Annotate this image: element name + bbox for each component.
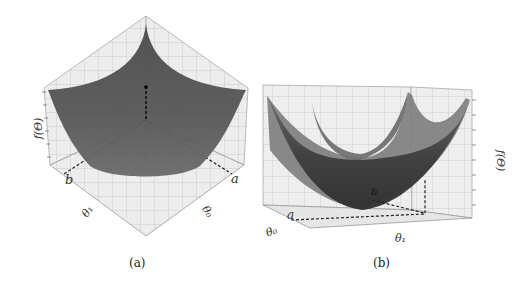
panel-b-plot: [263, 85, 476, 228]
panel-b-marker-b: b: [371, 187, 377, 197]
panel-a-marker-b: b: [65, 173, 73, 186]
panel-a-marker-a: a: [231, 172, 239, 185]
figure-canvas: [0, 0, 516, 283]
panel-a-caption: (a): [129, 257, 146, 269]
panel-b-zlabel: f(Θ): [495, 143, 506, 179]
panel-b-marker-a: a: [287, 209, 294, 221]
panel-a-plot: [42, 16, 248, 236]
panel-a-min-point: [144, 85, 148, 89]
panel-a-zlabel: f(Θ): [33, 111, 44, 147]
panel-b-xlabel: θ₁: [395, 233, 406, 244]
panel-b-caption: (b): [373, 257, 390, 269]
